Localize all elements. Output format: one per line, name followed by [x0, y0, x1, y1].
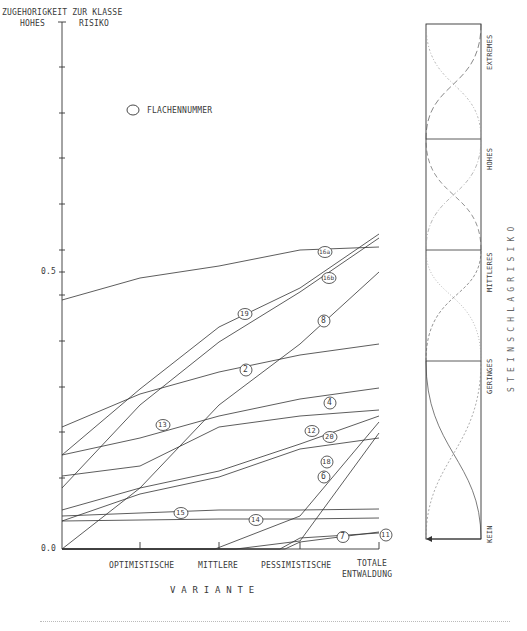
chart-canvas [0, 0, 527, 631]
marker-16a: 16a [319, 248, 330, 255]
class-kein: KEIN [486, 525, 494, 543]
marker-4: 4 [327, 398, 332, 407]
y-tick-0-0: 0.0 [41, 544, 56, 553]
marker-15: 15 [176, 509, 185, 517]
y-tick-0-5: 0.5 [41, 267, 56, 276]
x-category-mittlere: MITTLERE [198, 561, 238, 570]
marker-12: 12 [307, 427, 316, 435]
line-8 [62, 272, 379, 549]
class-hohes: HOHES [486, 148, 494, 170]
marker-18: 18 [322, 458, 331, 466]
legend-circle-icon [127, 105, 139, 115]
line-14 [62, 518, 379, 521]
risk-class-diagram [426, 24, 481, 542]
marker-13: 13 [158, 421, 167, 429]
x-category-pessimistische: PESSIMISTISCHE [261, 561, 331, 570]
marker-8: 8 [321, 316, 326, 325]
class-geringes: GERINGES [486, 359, 494, 394]
class-extremes: EXTREMES [486, 35, 494, 70]
marker-2: 2 [243, 365, 248, 374]
x-category-entwaldung: ENTWALDUNG [342, 570, 392, 579]
side-diagram-title: S T E I N S C H L A G R I S I K O [507, 226, 516, 392]
x-axis-title: V A R I A N T E [170, 585, 254, 595]
marker-20: 20 [325, 433, 334, 441]
line-6 [62, 433, 379, 549]
marker-11: 11 [381, 531, 390, 539]
line-15 [62, 509, 379, 516]
marker-6: 6 [321, 472, 326, 481]
arrow-left-icon [426, 536, 432, 542]
marker-14: 14 [251, 516, 260, 524]
x-category-totale: TOTALE [357, 559, 387, 568]
line-16b [62, 234, 379, 455]
x-category-optimistische: OPTIMISTISCHE [109, 561, 174, 570]
legend-label: FLACHENNUMMER [147, 106, 212, 115]
marker-19: 19 [240, 310, 249, 318]
marker-7: 7 [340, 532, 345, 541]
class-mittleres: MITTLERES [486, 252, 494, 292]
cropped-caption [40, 621, 510, 625]
marker-16b: 16b [323, 274, 334, 281]
line-20 [62, 438, 379, 521]
